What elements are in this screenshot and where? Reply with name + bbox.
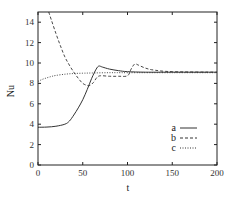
series-b-line — [49, 12, 217, 86]
series-a-line — [38, 66, 217, 127]
x-tick-label: 0 — [36, 168, 41, 178]
plot-area — [38, 12, 217, 127]
y-axis-label: Nu — [5, 85, 16, 97]
series-c-line — [38, 73, 217, 82]
x-axis-label: t — [127, 182, 130, 193]
y-tick-label: 10 — [25, 58, 35, 68]
y-tick-label: 4 — [30, 119, 35, 129]
y-tick-label: 2 — [30, 140, 35, 150]
x-tick-label: 150 — [166, 168, 180, 178]
y-tick-label: 0 — [30, 160, 35, 170]
plot-frame — [38, 12, 217, 165]
x-axis-ticks: 050100150200 — [36, 12, 225, 178]
legend-label-c: c — [172, 142, 177, 153]
legend: abc — [171, 122, 197, 153]
x-tick-label: 200 — [210, 168, 224, 178]
x-tick-label: 100 — [121, 168, 135, 178]
line-chart: 02468101214 050100150200 Nu t abc — [0, 0, 239, 199]
x-tick-label: 50 — [78, 168, 88, 178]
y-axis-ticks: 02468101214 — [25, 17, 217, 170]
y-tick-label: 12 — [25, 38, 34, 48]
y-tick-label: 6 — [30, 99, 35, 109]
y-tick-label: 8 — [30, 78, 35, 88]
y-tick-label: 14 — [25, 17, 35, 27]
